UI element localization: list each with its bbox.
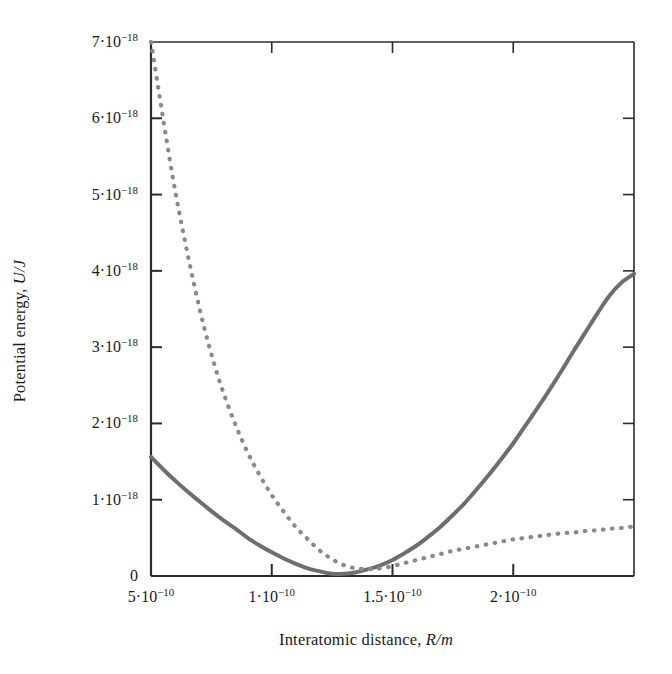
y-tick-label-1: 1·10−18: [0, 491, 138, 509]
series-solid-curve: [151, 274, 634, 574]
x-tick-label-0: 5·10−10: [128, 588, 174, 606]
y-tick-label-5: 5·10−18: [0, 186, 138, 204]
y-tick-label-0: 0: [0, 567, 138, 585]
x-axis-title-symbol: R/m: [426, 630, 453, 649]
x-axis-title: Interatomic distance, R/m: [0, 630, 672, 650]
x-tick-label-3: 2·10−10: [490, 588, 536, 606]
y-tick-label-2: 2·10−18: [0, 414, 138, 432]
y-tick-label-6: 6·10−18: [0, 109, 138, 127]
plot-content: [151, 42, 634, 576]
x-axis-title-text: Interatomic distance,: [279, 630, 422, 649]
chart-figure: Potential energy, U/J Interatomic distan…: [0, 0, 672, 674]
y-tick-label-4: 4·10−18: [0, 262, 138, 280]
x-tick-label-2: 1.5·10−10: [363, 588, 421, 606]
series-dotted-curve: [151, 42, 634, 569]
y-tick-label-3: 3·10−18: [0, 338, 138, 356]
y-tick-label-7: 7·10−18: [0, 33, 138, 51]
x-tick-label-1: 1·10−10: [249, 588, 295, 606]
